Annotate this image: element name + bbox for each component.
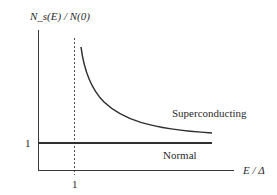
normal-label: Normal [163,149,197,161]
y-axis-label: N_s(E) / N(0) [30,10,90,22]
x-axis-label: E / Δ [243,164,265,176]
dos-chart: N_s(E) / N(0) 1 1 E / Δ Superconducting … [0,0,277,195]
y-tick-1: 1 [25,137,31,149]
chart-plot-area [0,0,277,195]
y-axis-label-text: N_s(E) / N(0) [30,10,90,22]
superconducting-label: Superconducting [172,107,247,119]
x-tick-1: 1 [72,178,78,190]
superconducting-curve [81,47,212,133]
